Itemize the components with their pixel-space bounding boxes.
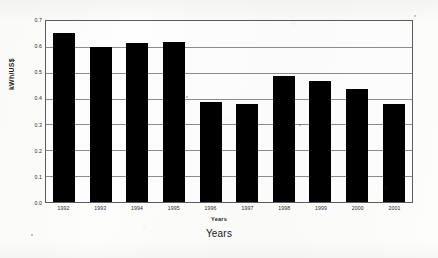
bar-slot [339,21,376,202]
x-tick-label: 2001 [376,205,413,211]
bar[interactable] [53,33,75,202]
bar-slot [192,21,229,202]
bar[interactable] [236,104,258,202]
bars-layer [46,21,412,202]
bar[interactable] [273,76,295,202]
y-tick-label: 0.5 [26,69,42,75]
y-tick-label: 0.7 [26,17,42,23]
x-tick-label: 1994 [119,205,156,211]
bar[interactable] [383,104,405,202]
bar-slot [229,21,266,202]
x-tick-label: 1996 [192,205,229,211]
x-axis-title-outer: Years [0,228,438,239]
bar[interactable] [90,47,112,202]
bar[interactable] [346,89,368,202]
y-axis-tick-labels: 0.7 0.6 0.5 0.4 0.3 0.2 0.1 0.0 [26,20,42,203]
bar-slot [83,21,120,202]
y-tick-label: 0.0 [26,200,42,206]
y-tick-label: 0.2 [26,148,42,154]
bar-slot [46,21,83,202]
x-tick-label: 1993 [82,205,119,211]
y-tick-label: 0.3 [26,122,42,128]
y-tick-label: 0.6 [26,43,42,49]
x-tick-label: 1997 [229,205,266,211]
x-tick-label: 1998 [266,205,303,211]
bar-slot [375,21,412,202]
x-tick-label: 1992 [45,205,82,211]
plot-area [45,20,413,203]
y-tick-label: 0.1 [26,174,42,180]
bar[interactable] [200,102,222,202]
bar-chart-figure: kWh/US$ 0.7 0.6 0.5 0.4 0.3 0.2 0.1 0.0 … [0,0,438,258]
bar[interactable] [126,43,148,202]
scanned-page: kWh/US$ 0.7 0.6 0.5 0.4 0.3 0.2 0.1 0.0 … [0,0,438,258]
x-axis-tick-labels: 1992199319941995199619971998199920002001 [45,205,413,215]
bar-slot [302,21,339,202]
x-tick-label: 1999 [303,205,340,211]
x-axis-title-inner: Years [0,216,438,222]
x-tick-label: 2000 [339,205,376,211]
bar[interactable] [309,81,331,202]
y-tick-label: 0.4 [26,95,42,101]
bar-slot [119,21,156,202]
bar-slot [156,21,193,202]
x-tick-label: 1995 [155,205,192,211]
y-axis-title: kWh/US$ [8,58,15,90]
bar-slot [266,21,303,202]
bar[interactable] [163,42,185,202]
